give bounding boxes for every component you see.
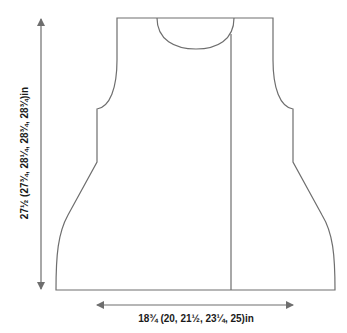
length-label: 27½ (27¾, 28¼, 28¾, 28¾)in bbox=[19, 87, 30, 219]
width-label: 18¾ (20, 21½, 23¼, 25)in bbox=[138, 313, 254, 324]
neckline bbox=[157, 18, 234, 49]
garment-outline bbox=[56, 18, 335, 290]
garment-schematic: 18¾ (20, 21½, 23¼, 25)in 27½ (27¾, 28¼, … bbox=[0, 0, 347, 333]
